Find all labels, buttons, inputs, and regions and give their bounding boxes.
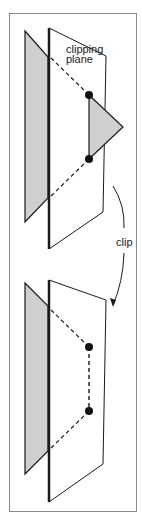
intersection-vertex-top [85, 91, 93, 99]
clip-label: clip [116, 236, 133, 248]
clipped-vertex-bottom [85, 407, 93, 415]
intersection-vertex-bottom [85, 155, 93, 163]
clip-arrow-curve [113, 186, 124, 228]
triangle-back-portion-after [25, 283, 48, 474]
triangle-back-portion [25, 31, 48, 222]
panel-after-clip [25, 280, 106, 502]
triangle-clipped-portion [89, 95, 123, 159]
clipping-plane-label-line2: plane [66, 53, 93, 65]
clipping-plane-after [49, 280, 106, 502]
clip-arrow-curve-lower [113, 253, 124, 305]
clipping-diagram: clipping plane clip [0, 0, 142, 516]
clipped-vertex-top [85, 343, 93, 351]
clip-arrow: clip [110, 186, 133, 307]
panel-before-clip: clipping plane [25, 28, 123, 249]
